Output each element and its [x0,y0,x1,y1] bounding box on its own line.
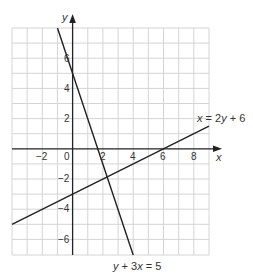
x-tick: 4 [130,151,136,162]
equation-label-line2: x = 2y + 6 [196,112,245,124]
y-tick: −4 [58,203,70,214]
x-tick: 2 [100,151,106,162]
y-tick: 2 [64,113,70,124]
y-tick: 4 [64,83,70,94]
equation-label-line1: y + 3x = 5 [112,260,161,272]
y-axis-label: y [61,11,69,23]
y-tick: −6 [58,234,70,245]
graph: y x −2 0 2 4 6 8 6 4 2 −2 −4 −6 x = 2y +… [0,0,253,278]
y-tick: −2 [58,173,70,184]
y-axis-arrow-icon [69,14,76,23]
x-tick: 6 [160,151,166,162]
x-tick: 0 [64,151,70,162]
x-axis-label: x [215,151,222,163]
x-tick: 8 [191,151,197,162]
y-tick: 6 [64,53,70,64]
x-tick: −2 [36,151,48,162]
axes [12,14,222,255]
